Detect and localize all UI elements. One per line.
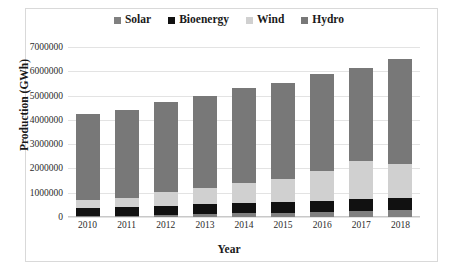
bar-segment-solar bbox=[193, 214, 217, 217]
bar-segment-wind bbox=[232, 183, 256, 203]
bar-segment-hydro bbox=[271, 83, 295, 179]
bar-segment-bioenergy bbox=[349, 199, 373, 210]
bar-segment-wind bbox=[193, 188, 217, 204]
bar-2016[interactable] bbox=[310, 74, 334, 217]
bar-segment-wind bbox=[115, 198, 139, 208]
bar-segment-wind bbox=[349, 161, 373, 199]
bar-segment-solar bbox=[154, 215, 178, 217]
x-axis-title: Year bbox=[0, 243, 458, 255]
bar-segment-bioenergy bbox=[76, 208, 100, 216]
y-axis-tick-label: 4000000 bbox=[30, 115, 63, 125]
bar-segment-hydro bbox=[310, 74, 334, 171]
bar-segment-solar bbox=[232, 213, 256, 217]
x-axis-tick-label: 2014 bbox=[235, 220, 254, 230]
bar-segment-hydro bbox=[193, 96, 217, 189]
x-axis-tick-label: 2015 bbox=[274, 220, 293, 230]
bar-segment-bioenergy bbox=[271, 202, 295, 212]
bar-segment-solar bbox=[271, 213, 295, 217]
bar-segment-hydro bbox=[115, 110, 139, 197]
bar-2010[interactable] bbox=[76, 114, 100, 217]
bar-segment-hydro bbox=[232, 88, 256, 183]
bar-2011[interactable] bbox=[115, 110, 139, 217]
y-axis-title: Production (GWh) bbox=[18, 25, 30, 185]
bar-segment-bioenergy bbox=[193, 204, 217, 214]
y-axis-tick-label: 2000000 bbox=[30, 163, 63, 173]
bar-segment-solar bbox=[349, 211, 373, 217]
x-axis-tick-label: 2017 bbox=[352, 220, 371, 230]
y-axis-tick-label: 0 bbox=[58, 212, 63, 222]
chart-plot-wrapper: Production (GWh) Year 010000002000000300… bbox=[0, 0, 458, 280]
gridline bbox=[68, 47, 420, 48]
x-axis-tick-label: 2016 bbox=[313, 220, 332, 230]
bar-segment-wind bbox=[154, 192, 178, 206]
bar-segment-solar bbox=[388, 210, 412, 217]
y-axis-tick-label: 5000000 bbox=[30, 91, 63, 101]
bar-segment-hydro bbox=[76, 114, 100, 200]
y-axis-tick-label: 1000000 bbox=[30, 188, 63, 198]
bar-segment-wind bbox=[271, 179, 295, 202]
bar-segment-bioenergy bbox=[388, 198, 412, 210]
bar-segment-bioenergy bbox=[115, 207, 139, 215]
bar-segment-wind bbox=[76, 200, 100, 208]
bar-segment-hydro bbox=[349, 68, 373, 162]
y-axis-tick-label: 6000000 bbox=[30, 66, 63, 76]
gridline bbox=[68, 217, 420, 218]
bar-2017[interactable] bbox=[349, 68, 373, 217]
bar-2018[interactable] bbox=[388, 59, 412, 217]
bar-segment-bioenergy bbox=[154, 206, 178, 215]
plot-area: 0100000020000003000000400000050000006000… bbox=[68, 47, 420, 217]
x-axis-tick-label: 2013 bbox=[195, 220, 214, 230]
bar-2012[interactable] bbox=[154, 102, 178, 217]
x-axis-tick-label: 2011 bbox=[117, 220, 136, 230]
bar-segment-wind bbox=[310, 171, 334, 201]
bar-segment-bioenergy bbox=[232, 203, 256, 213]
bar-segment-solar bbox=[115, 216, 139, 217]
x-axis-tick-label: 2012 bbox=[156, 220, 175, 230]
bar-2014[interactable] bbox=[232, 88, 256, 217]
bar-2015[interactable] bbox=[271, 83, 295, 217]
bar-segment-solar bbox=[310, 212, 334, 217]
x-axis-tick-label: 2010 bbox=[78, 220, 97, 230]
bar-segment-bioenergy bbox=[310, 201, 334, 212]
bar-2013[interactable] bbox=[193, 96, 217, 217]
bar-segment-solar bbox=[76, 216, 100, 217]
y-axis-tick-label: 7000000 bbox=[30, 42, 63, 52]
y-axis-tick-label: 3000000 bbox=[30, 139, 63, 149]
bar-segment-hydro bbox=[388, 59, 412, 163]
x-axis-tick-label: 2018 bbox=[391, 220, 410, 230]
bar-segment-wind bbox=[388, 164, 412, 198]
bar-segment-hydro bbox=[154, 102, 178, 193]
